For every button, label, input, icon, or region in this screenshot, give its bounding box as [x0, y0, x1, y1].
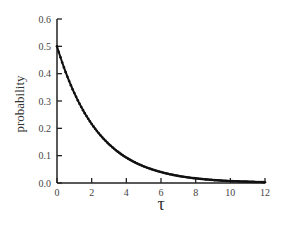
data-point-marker: [63, 66, 66, 69]
data-point-marker: [85, 115, 88, 118]
x-tick-label: 4: [124, 187, 129, 198]
x-tick-label: 12: [260, 187, 270, 198]
y-tick-label: 0.0: [39, 178, 52, 189]
data-point-marker: [78, 102, 81, 105]
data-point-marker: [64, 71, 67, 74]
x-axis-title: τ: [157, 194, 164, 214]
data-point-marker: [68, 80, 71, 83]
data-point-marker: [92, 125, 95, 128]
probability-curve: [57, 46, 265, 182]
data-point-marker: [73, 92, 76, 95]
y-tick-label: 0.3: [39, 96, 52, 107]
data-point-marker: [83, 112, 86, 115]
data-point-marker: [99, 134, 102, 137]
y-tick-label: 0.6: [39, 14, 52, 25]
data-point-marker: [61, 61, 64, 64]
y-tick-label: 0.1: [39, 150, 52, 161]
y-axis-ticks: 0.00.10.20.30.40.50.6: [39, 14, 63, 189]
data-point-marker: [264, 181, 267, 184]
data-point-marker: [70, 84, 73, 87]
data-point-marker: [77, 99, 80, 102]
y-tick-label: 0.2: [39, 123, 52, 134]
data-point-marker: [80, 106, 83, 109]
y-tick-label: 0.5: [39, 41, 52, 52]
data-point-marker: [97, 132, 100, 135]
data-point-marker: [87, 117, 90, 120]
y-axis-title: probability: [12, 75, 27, 133]
data-point-marker: [90, 123, 93, 126]
curve-markers: [56, 45, 267, 183]
y-tick-label: 0.4: [39, 68, 52, 79]
x-tick-label: 10: [225, 187, 235, 198]
data-point-marker: [57, 51, 60, 54]
data-point-marker: [96, 130, 99, 133]
data-point-marker: [75, 95, 78, 98]
data-point-marker: [94, 127, 97, 130]
data-point-marker: [71, 88, 74, 91]
data-point-marker: [56, 45, 59, 48]
data-point-marker: [82, 109, 85, 112]
x-tick-label: 0: [55, 187, 60, 198]
data-point-marker: [59, 56, 62, 59]
data-point-marker: [89, 120, 92, 123]
probability-decay-chart: 0.00.10.20.30.40.50.6 024681012 probabil…: [0, 0, 284, 227]
data-point-marker: [66, 75, 69, 78]
x-tick-label: 8: [193, 187, 198, 198]
x-tick-label: 2: [89, 187, 94, 198]
